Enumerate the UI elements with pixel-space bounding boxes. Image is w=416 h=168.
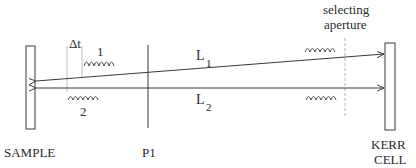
l2-subscript: 2 [206, 101, 212, 113]
pulse-lower-right-wave-icon [306, 97, 336, 101]
l1-subscript: 1 [206, 57, 212, 69]
pulse-2-label: 2 [80, 104, 87, 119]
aperture-label-1: selecting [323, 2, 370, 17]
kerr-cell-label-1: KERR [371, 137, 406, 152]
l1-label: L [196, 48, 205, 63]
aperture-label-2: aperture [324, 17, 367, 32]
pulse-upper-right-wave-icon [305, 49, 335, 53]
pulse-2-wave-icon [68, 97, 98, 101]
delay-label: Δt [69, 36, 81, 51]
diagram-canvas: SAMPLE KERR CELL P1 selecting aperture Δ… [0, 0, 416, 168]
pulse-1-label: 1 [97, 44, 104, 59]
optical-diagram: SAMPLE KERR CELL P1 selecting aperture Δ… [0, 0, 416, 168]
p1-label: P1 [142, 145, 156, 160]
sample-plate [26, 46, 35, 129]
sample-label: SAMPLE [4, 145, 55, 160]
kerr-cell-label-2: CELL [374, 152, 407, 167]
pulse-1-wave-icon [84, 62, 114, 66]
kerr-cell [385, 43, 395, 130]
l2-label: L [196, 92, 205, 107]
